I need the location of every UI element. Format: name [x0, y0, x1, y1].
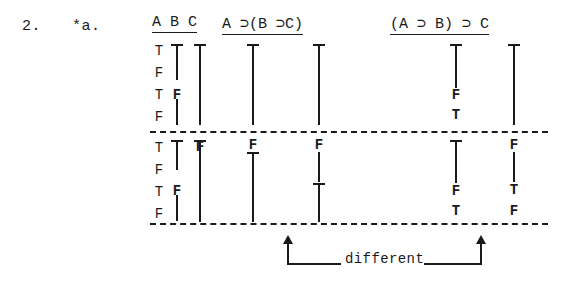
cell-A-row5: T	[152, 141, 166, 155]
ditto-stroke-f2main-rows1-4	[513, 44, 515, 125]
cell-A-row3: T	[152, 88, 166, 102]
cell-f2main-row7: T	[507, 183, 521, 197]
ditto-stroke-C-rows1-4	[199, 44, 201, 125]
ditto-stroke-C-rows5-8	[199, 140, 201, 222]
cell-A-row1: T	[152, 44, 166, 58]
row-group-divider-lower	[150, 223, 548, 225]
right-arrow-riser	[480, 243, 482, 265]
ditto-stroke-B-rows7-8	[176, 195, 178, 221]
right-arrow-icon	[476, 235, 486, 244]
exercise-number: 2.	[22, 18, 41, 35]
exercise-part: *a.	[72, 18, 101, 35]
cell-f2main-row5: F	[507, 138, 521, 152]
ditto-stroke-f1inner-row6	[318, 152, 320, 182]
cell-f2inner-row7: F	[449, 184, 463, 198]
cell-A-row6: F	[152, 163, 166, 177]
cell-f1main-row5: F	[246, 138, 260, 152]
cell-A-row8: F	[152, 207, 166, 221]
cell-A-row7: T	[152, 185, 166, 199]
cell-A-row4: F	[152, 110, 166, 124]
ditto-stroke-B-rows3-4	[176, 99, 178, 125]
cell-f2main-row8: F	[507, 204, 521, 218]
ditto-stroke-f2inner-rows1-2	[455, 44, 457, 88]
ditto-stroke-f1main-rows6-8	[252, 152, 254, 222]
ditto-stroke-f1inner-rows7-8	[318, 183, 320, 222]
ditto-stroke-f2main-row6	[513, 152, 515, 182]
cell-f2inner-row4: T	[449, 108, 463, 122]
different-label: different	[345, 251, 424, 267]
left-arrow-leader	[287, 263, 341, 265]
right-arrow-leader	[424, 263, 482, 265]
ditto-stroke-f1inner-rows1-4	[318, 44, 320, 125]
worksheet-page: 2. *a. A B C A ⊃(B ⊃C) (A ⊃ B) ⊃ C T F T…	[0, 0, 568, 285]
cell-f2inner-row8: T	[449, 204, 463, 218]
left-arrow-riser	[287, 243, 289, 265]
cell-A-row2: F	[152, 66, 166, 80]
ditto-stroke-f1main-rows1-4	[252, 44, 254, 125]
cell-f1inner-row5: F	[312, 138, 326, 152]
header-variables: A B C	[152, 14, 197, 33]
cell-f2inner-row3: F	[449, 88, 463, 102]
ditto-stroke-f2inner-rows5-6	[455, 140, 457, 183]
row-group-divider-upper	[150, 131, 548, 133]
header-formula-2: (A ⊃ B) ⊃ C	[390, 14, 489, 35]
ditto-stroke-B-rows1-2	[176, 44, 178, 80]
ditto-stroke-B-rows5-6	[176, 140, 178, 170]
header-formula-1: A ⊃(B ⊃C)	[222, 14, 303, 35]
